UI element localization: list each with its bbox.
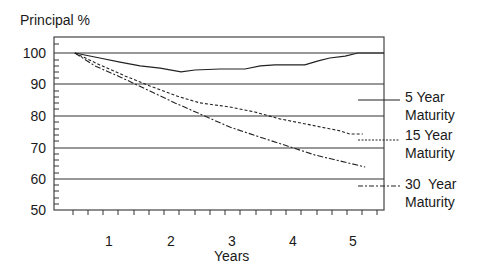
legend-item-5-year: 5 Year Maturity bbox=[405, 88, 455, 124]
series-line-30-year bbox=[75, 53, 365, 167]
x-tick-3: 3 bbox=[222, 233, 242, 249]
legend-label-line1: 15 Year bbox=[405, 126, 455, 144]
legend-item-15-year: 15 Year Maturity bbox=[405, 126, 455, 162]
y-minor-ticks bbox=[54, 44, 59, 204]
x-axis-title: Years bbox=[214, 248, 249, 264]
legend-label-line2: Maturity bbox=[405, 144, 455, 162]
x-minor-ticks bbox=[73, 210, 377, 215]
x-tick-1: 1 bbox=[99, 233, 119, 249]
legend-item-30-year: 30 Year Maturity bbox=[405, 175, 456, 211]
x-tick-4: 4 bbox=[283, 233, 303, 249]
legend-label-line2: Maturity bbox=[405, 106, 455, 124]
x-tick-5: 5 bbox=[343, 233, 363, 249]
plot-frame bbox=[54, 37, 384, 210]
legend-label-line2: Maturity bbox=[405, 193, 456, 211]
series-line-5-year bbox=[75, 53, 384, 72]
legend-label-line1: 30 Year bbox=[405, 175, 456, 193]
legend-label-line1: 5 Year bbox=[405, 88, 455, 106]
x-tick-2: 2 bbox=[161, 233, 181, 249]
